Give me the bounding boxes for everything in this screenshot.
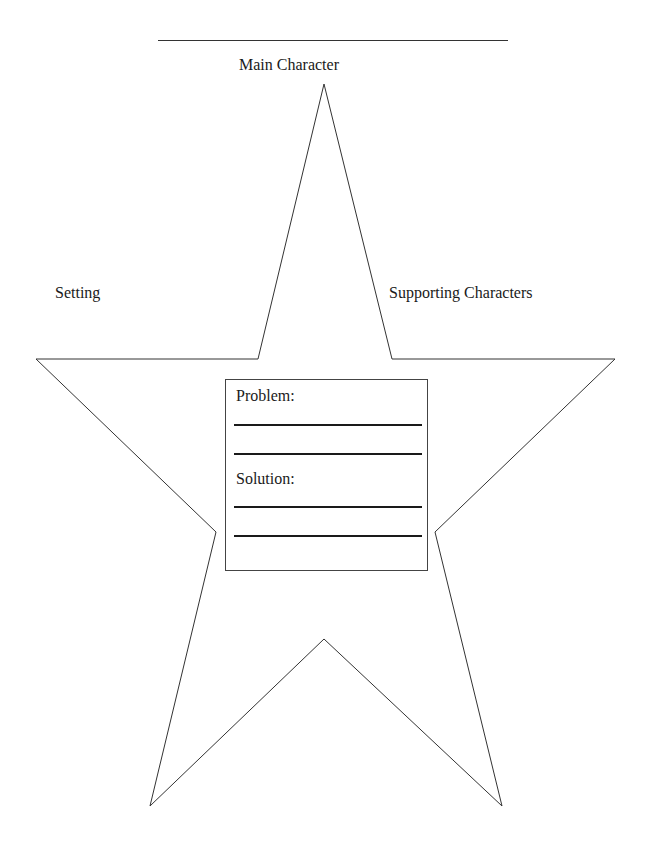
problem-line-2[interactable] <box>234 453 422 455</box>
problem-solution-box: Problem: Solution: <box>225 379 428 571</box>
solution-line-1[interactable] <box>234 506 422 508</box>
problem-label: Problem: <box>236 387 295 405</box>
problem-line-1[interactable] <box>234 424 422 426</box>
solution-label: Solution: <box>236 470 295 488</box>
solution-line-2[interactable] <box>234 535 422 537</box>
